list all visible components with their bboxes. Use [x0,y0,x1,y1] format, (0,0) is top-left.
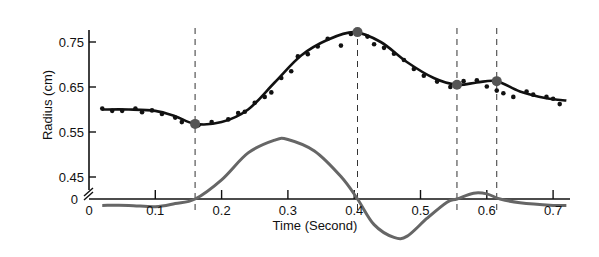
data-point [494,88,499,93]
data-point [209,120,214,125]
y-tick-label: 0.45 [59,170,84,185]
radius-time-chart: 0.750.650.550.45000.10.20.30.40.50.60.7T… [0,0,599,257]
data-point [475,78,480,83]
data-point [315,44,320,49]
x-tick-label: 0.5 [411,203,429,218]
data-point [133,106,138,111]
y-axis-title: Radius (cm) [40,70,55,140]
data-point [544,95,549,100]
data-point [524,89,529,94]
x-tick-label: 0 [85,203,92,218]
x-tick-label: 0.4 [345,203,363,218]
data-point [402,58,407,63]
highlight-point [492,76,502,86]
data-point [531,92,536,97]
y-tick-label: 0.75 [59,35,84,50]
y-break-zero-label: 0 [71,192,78,207]
data-point [448,85,453,90]
data-point [501,91,506,96]
x-axis-title: Time (Second) [273,218,358,233]
data-point [289,69,294,74]
y-tick-label: 0.65 [59,80,84,95]
x-tick-label: 0.6 [478,203,496,218]
data-point [461,79,466,84]
chart-container: 0.750.650.550.45000.10.20.30.40.50.60.7T… [0,0,599,257]
data-point [236,111,241,116]
data-point [551,96,556,101]
axis-labels: 0.750.650.550.45000.10.20.30.40.50.60.7T… [40,35,562,233]
data-point [511,95,516,100]
data-point [140,110,145,115]
x-tick-label: 0.7 [544,203,562,218]
data-point [110,109,115,114]
data-point [557,102,562,107]
data-point [100,106,105,111]
data-point [279,76,284,81]
data-point [365,34,370,39]
data-point [435,79,440,84]
y-tick-label: 0.55 [59,125,84,140]
data-point [173,115,178,120]
x-tick-label: 0.3 [279,203,297,218]
data-point [325,37,330,42]
x-tick-label: 0.1 [146,203,164,218]
data-point [180,120,185,125]
data-point [262,95,267,100]
highlight-point [452,80,462,90]
data-point [269,90,274,95]
data-point [372,42,377,47]
data-point [422,73,427,78]
data-point [296,54,301,59]
data-point [382,46,387,51]
highlight-point [190,119,200,129]
data-point [226,117,231,122]
data-point [150,108,155,113]
data-point [485,84,490,89]
data-point [412,67,417,72]
highlight-point [353,27,363,37]
data-point [392,51,397,56]
x-tick-label: 0.2 [213,203,231,218]
data-point [160,112,165,117]
data-point [305,52,310,57]
data-point [349,32,354,37]
data-point [339,43,344,48]
data-point [252,100,257,105]
data-point [120,109,125,114]
data-point [243,109,248,114]
